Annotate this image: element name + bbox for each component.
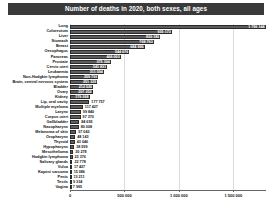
bar-track: 7 995 (70, 185, 272, 190)
bar-value-label: 7 995 (71, 185, 82, 189)
bar-value-label: 1 796 144 (243, 25, 266, 29)
bar-value-label: 15 086 (72, 170, 85, 174)
bar (70, 100, 89, 104)
bar-value-label: 177 757 (90, 100, 105, 104)
bar (70, 25, 266, 29)
bar-value-label: 251 329 (79, 80, 98, 84)
bar (70, 105, 83, 109)
bar (70, 145, 74, 149)
bar-value-label: 80 008 (79, 125, 92, 129)
bar (70, 120, 79, 124)
axis-tick-mark (233, 190, 234, 192)
bar (70, 130, 76, 134)
bar-value-label: 179 368 (71, 95, 90, 99)
axis-tick-label: 500 000 (117, 193, 131, 198)
bar-value-label: 38 599 (75, 145, 88, 149)
bar-value-label: 207 252 (74, 90, 93, 94)
bar-value-label: 117 427 (83, 105, 98, 109)
bar-value-label: 684 996 (126, 45, 145, 49)
bar (70, 125, 79, 129)
axis-tick-mark (70, 190, 71, 192)
bar-value-label: 99 840 (81, 110, 94, 114)
bar-value-label: 341 831 (89, 65, 108, 69)
bar-value-label: 311 594 (86, 70, 105, 74)
axis-tick-label: 1 500 000 (224, 193, 242, 198)
bar-value-label: 30 278 (74, 150, 87, 154)
bar-value-label: 17 427 (72, 165, 85, 169)
bar-row: Vagina7 995 (0, 185, 272, 190)
bar-value-label: 375 304 (92, 60, 111, 64)
bar-value-label: 935 173 (153, 30, 172, 34)
bar-value-label: 768 793 (135, 40, 154, 44)
bar (70, 110, 81, 114)
bar-value-label: 830 180 (142, 35, 161, 39)
bar (70, 135, 75, 139)
bar-chart-figure: Number of deaths in 2020, both sexes, al… (0, 0, 272, 205)
bar-value-label: 544 076 (111, 50, 130, 54)
bar-value-label: 466 003 (102, 55, 121, 59)
bar-value-label: 212 536 (75, 85, 94, 89)
chart-title-bar: Number of deaths in 2020, both sexes, al… (8, 3, 264, 15)
bar-value-label: 57 043 (77, 130, 90, 134)
bar-value-label: 22 778 (73, 160, 86, 164)
axis-tick-mark (124, 190, 125, 192)
bar-value-label: 84 695 (80, 120, 93, 124)
x-axis: 0500 0001 000 0001 500 000 (0, 190, 272, 205)
bar (70, 150, 73, 154)
bar-value-label: 9 334 (72, 180, 83, 184)
axis-tick-mark (179, 190, 180, 192)
bar-value-label: 23 376 (73, 155, 86, 159)
axis-tick-label: 0 (69, 193, 71, 198)
bar-category-label: Vagina (0, 185, 70, 189)
chart-title: Number of deaths in 2020, both sexes, al… (8, 3, 264, 15)
bar-value-label: 43 646 (75, 140, 88, 144)
bar-value-label: 13 211 (72, 175, 85, 179)
plot-area: Lung1 796 144Colorectum935 173Liver830 1… (0, 24, 272, 190)
bar-value-label: 259 793 (80, 75, 99, 79)
bar-value-label: 48 143 (76, 135, 89, 139)
axis-line (70, 190, 266, 191)
bar-value-label: 97 370 (81, 115, 94, 119)
bar (70, 140, 75, 144)
axis-tick-label: 1 000 000 (170, 193, 188, 198)
bar (70, 115, 81, 119)
